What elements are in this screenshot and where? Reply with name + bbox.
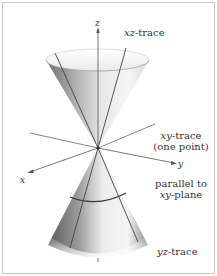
- x-axis-label: x: [20, 175, 25, 186]
- yz-trace-label: yz-trace: [157, 246, 198, 257]
- parallel-to-xy-plane-label: parallel to xy-plane: [146, 178, 216, 200]
- y-axis-label: y: [178, 159, 183, 170]
- xy-trace-label: xy-trace (one point): [146, 130, 216, 152]
- xz-trace-label: xz-trace: [124, 27, 165, 38]
- lower-nappe: [48, 148, 148, 258]
- z-axis-label: z: [95, 18, 100, 29]
- xy-trace-point: [97, 147, 100, 150]
- x-axis: [30, 133, 98, 148]
